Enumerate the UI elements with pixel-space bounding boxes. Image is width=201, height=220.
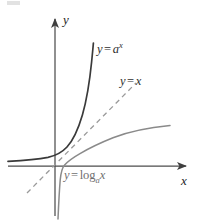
log-label-operator: = xyxy=(70,168,80,182)
y-axis-label: y xyxy=(63,13,69,26)
graph-canvas xyxy=(0,0,201,220)
log-label-argument: x xyxy=(100,168,106,182)
x-axis-label: x xyxy=(181,174,187,187)
exponential-curve xyxy=(8,43,93,161)
identity-label-operator: = xyxy=(126,74,136,88)
exp-label-exponent: x xyxy=(119,40,123,50)
log-label-lhs: y xyxy=(64,168,70,182)
exp-label-lhs: y xyxy=(97,42,103,56)
log-label-function: log xyxy=(80,168,96,182)
exp-label-operator: = xyxy=(103,42,113,56)
identity-label-lhs: y xyxy=(120,74,126,88)
exponential-curve-label: y=ax xyxy=(97,43,123,56)
identity-line-label: y=x xyxy=(120,75,141,88)
math-figure: y x y=ax y=x y=logax xyxy=(0,0,201,220)
logarithmic-curve-label: y=logax xyxy=(64,169,105,182)
identity-label-rhs: x xyxy=(136,74,142,88)
